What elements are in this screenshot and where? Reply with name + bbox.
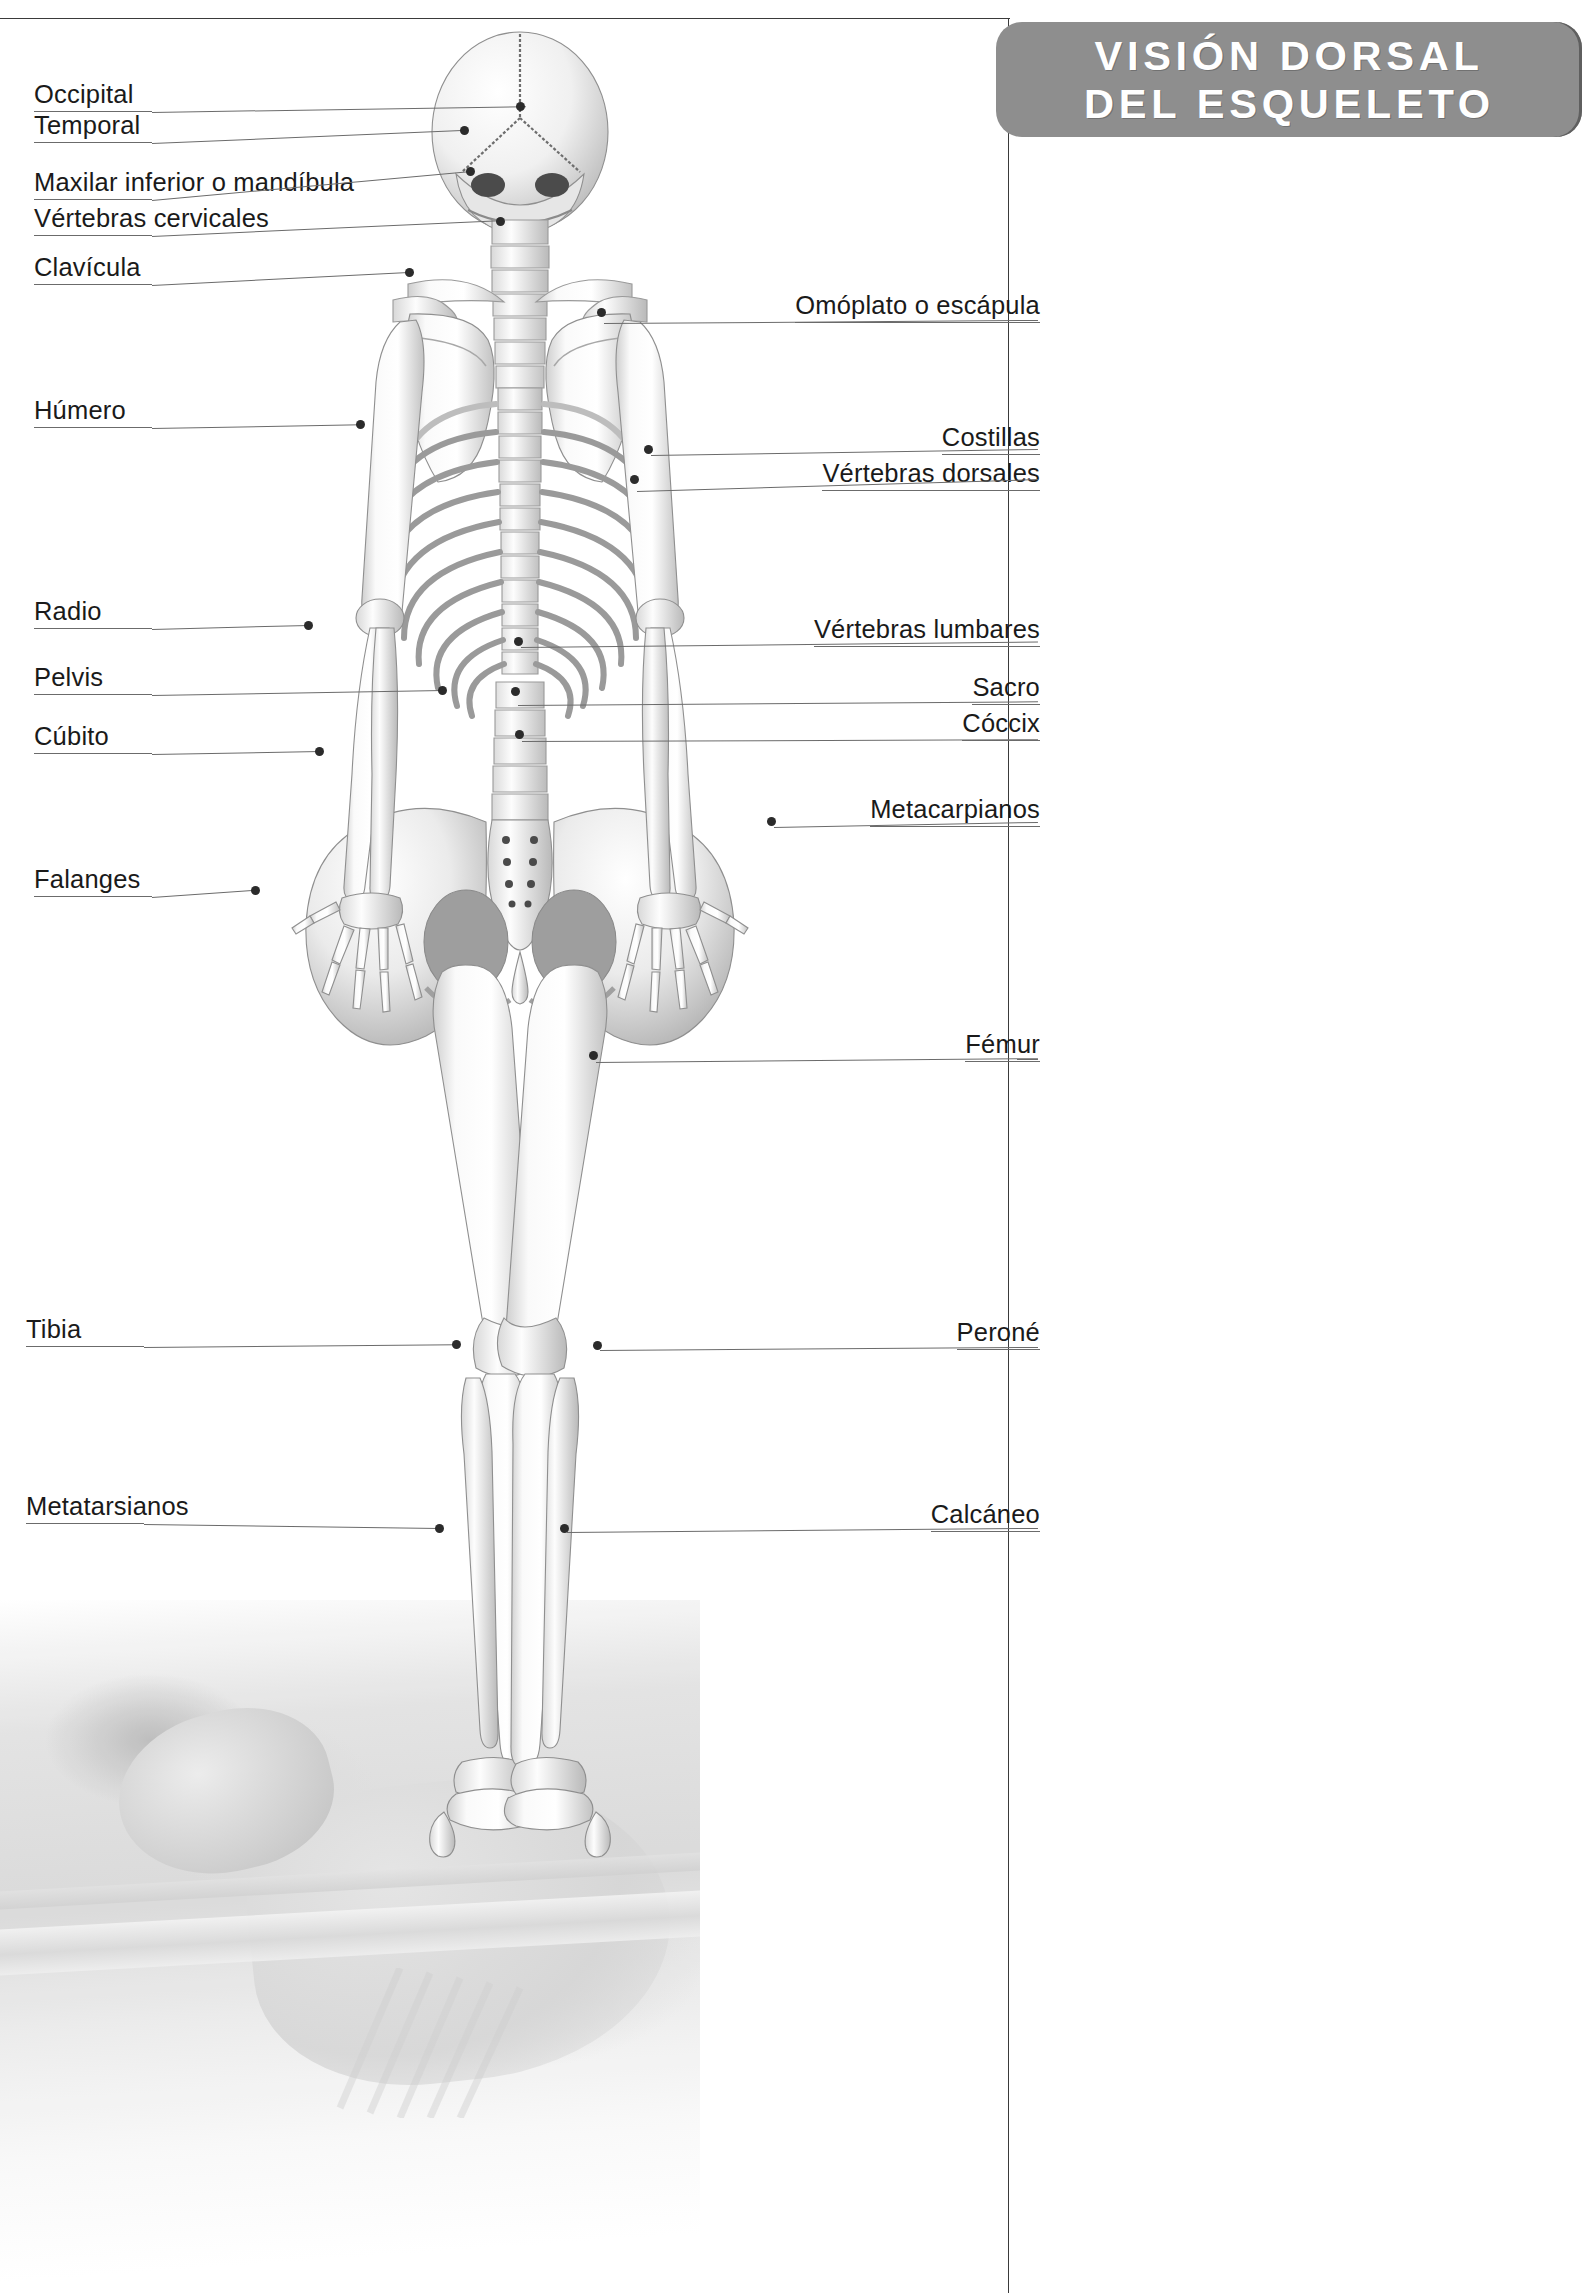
label-underline-cervicales [34,235,152,236]
marker-dot-cubito [315,747,324,756]
label-calcaneo: Calcáneo [931,1500,1040,1528]
label-radio: Radio [34,597,102,625]
label-sacro: Sacro [972,673,1040,701]
label-underline-lumbares [814,646,1040,647]
marker-dot-tibia [452,1340,461,1349]
label-underline-dorsales [822,490,1040,491]
label-omoplato: Omóplato o escápula [795,291,1040,319]
label-tibia: Tibia [26,1315,81,1343]
marker-dot-falanges [251,886,260,895]
marker-dot-lumbares [514,637,523,646]
frame-top-rule [0,18,1010,19]
label-clavicula: Clavícula [34,253,141,281]
label-perone: Peroné [957,1318,1040,1346]
marker-dot-clavicula [405,268,414,277]
marker-dot-pelvis [438,686,447,695]
marker-dot-calcaneo [560,1524,569,1533]
marker-dot-sacro [511,687,520,696]
label-underline-radio [34,628,152,629]
label-falanges: Falanges [34,865,141,893]
skeleton-illustration [230,22,950,2287]
label-occipital: Occipital [34,80,134,108]
cervical-vertebrae [491,220,549,388]
marker-dot-cervicales [496,217,505,226]
label-humero: Húmero [34,396,126,424]
label-lumbares: Vértebras lumbares [814,615,1040,643]
marker-dot-dorsales [630,475,639,484]
label-underline-falanges [34,896,152,897]
banner-title-line1: VISIÓN DORSAL [1094,33,1483,79]
marker-dot-costillas [644,445,653,454]
label-metatarsianos: Metatarsianos [26,1492,189,1520]
right-foot [504,1757,610,1857]
label-metacarpianos: Metacarpianos [870,795,1040,823]
marker-dot-coccix [515,730,524,739]
marker-dot-radio [304,621,313,630]
label-cervicales: Vértebras cervicales [34,204,269,232]
label-underline-calcaneo [931,1531,1040,1532]
label-underline-sacro [972,704,1040,705]
label-underline-cubito [34,753,152,754]
skull [432,32,608,234]
marker-dot-mandibula [466,167,475,176]
lumbar-vertebrae [492,682,548,820]
thoracic-vertebrae [498,388,542,674]
marker-dot-metacarpianos [767,817,776,826]
label-underline-femur [965,1061,1040,1062]
marker-dot-perone [593,1341,602,1350]
label-underline-metatarsianos [26,1523,144,1524]
banner-title-line2: DEL ESQUELETO [1084,81,1495,127]
marker-dot-humero [356,420,365,429]
label-costillas: Costillas [942,423,1040,451]
marker-dot-occipital [516,102,525,111]
label-underline-humero [34,427,152,428]
label-underline-temporal [34,142,152,143]
frame-right-rule [1008,18,1009,2293]
label-femur: Fémur [965,1030,1040,1058]
label-underline-perone [957,1349,1040,1350]
label-underline-clavicula [34,284,152,285]
label-underline-mandibula [34,199,152,200]
diagram-page: VISIÓN DORSAL DEL ESQUELETO [0,0,1588,2293]
label-underline-tibia [26,1346,144,1347]
marker-dot-omoplato [597,308,606,317]
marker-dot-metatarsianos [435,1524,444,1533]
title-banner: VISIÓN DORSAL DEL ESQUELETO [996,22,1582,137]
label-temporal: Temporal [34,111,140,139]
label-pelvis: Pelvis [34,663,103,691]
label-underline-metacarpianos [870,826,1040,827]
label-mandibula: Maxilar inferior o mandíbula [34,168,354,196]
marker-dot-temporal [460,126,469,135]
label-underline-costillas [942,454,1040,455]
label-coccix: Cóccix [962,709,1040,737]
label-cubito: Cúbito [34,722,109,750]
label-underline-pelvis [34,694,152,695]
marker-dot-femur [589,1051,598,1060]
